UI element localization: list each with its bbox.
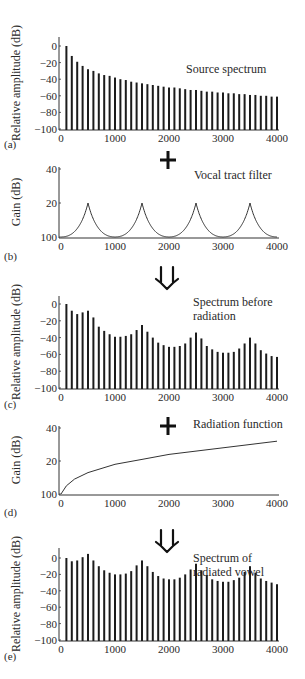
y-tick-label: 0: [52, 552, 58, 564]
harmonic-bar: [163, 87, 165, 130]
x-tick-label: 4000: [266, 391, 289, 403]
harmonic-bar: [109, 76, 111, 130]
harmonic-bar: [222, 582, 224, 641]
harmonic-bar: [265, 96, 267, 130]
harmonic-bar: [271, 356, 273, 389]
x-tick-label: 0: [58, 643, 64, 655]
harmonic-bar: [254, 343, 256, 389]
harmonic-bar: [136, 330, 138, 389]
x-tick-label: 3000: [212, 643, 235, 655]
y-tick-label: −40: [40, 73, 58, 85]
harmonic-bar: [146, 566, 148, 641]
harmonic-bar: [76, 314, 78, 389]
harmonic-bar: [136, 565, 138, 641]
harmonic-bar: [227, 353, 229, 389]
y-tick-label: −40: [40, 332, 58, 344]
harmonic-bar: [125, 80, 127, 130]
y-axis-label: Relative amplitude (dB): [9, 536, 23, 652]
x-tick-label: 2000: [158, 240, 181, 252]
panel-annotation: Vocal tract filter: [194, 168, 272, 182]
x-tick-label: 3000: [212, 240, 235, 252]
y-tick-label: 20: [46, 197, 58, 209]
x-tick-label: 1000: [104, 497, 127, 509]
x-tick-label: 2000: [158, 643, 181, 655]
harmonic-bar: [200, 91, 202, 130]
panel-annotation: radiated vowel: [193, 565, 265, 579]
vocal-tract-filter-curve: [61, 203, 277, 237]
harmonic-bar: [136, 83, 138, 130]
harmonic-bar: [87, 554, 89, 641]
harmonic-bar: [152, 338, 154, 389]
harmonic-bar: [87, 69, 89, 130]
harmonic-bar: [173, 579, 175, 641]
harmonic-bar: [98, 73, 100, 130]
down-arrow-icon: [156, 530, 178, 552]
panel-label: (e): [4, 650, 17, 663]
harmonic-bar: [92, 560, 94, 641]
harmonic-bar: [233, 352, 235, 389]
x-tick-label: 4000: [266, 643, 289, 655]
harmonic-bar: [119, 337, 121, 389]
x-tick-label: 1000: [104, 132, 127, 144]
harmonic-bar: [98, 566, 100, 641]
harmonic-bar: [184, 89, 186, 130]
panel-d: 402010001000200030004000Gain (dB)(d)Radi…: [4, 417, 289, 519]
y-tick-label: −60: [40, 348, 58, 360]
harmonic-bar: [179, 578, 181, 641]
y-tick-label: −100: [34, 382, 57, 394]
harmonic-bar: [260, 579, 262, 642]
harmonic-bar: [179, 346, 181, 389]
plus-icon: [160, 151, 176, 169]
harmonic-bar: [141, 560, 143, 641]
harmonic-bar: [130, 571, 132, 641]
harmonic-bar: [98, 327, 100, 389]
harmonic-bar: [206, 92, 208, 130]
harmonic-bar: [92, 71, 94, 130]
harmonic-bar: [82, 557, 84, 641]
harmonic-bar: [238, 578, 240, 641]
x-tick-label: 2000: [158, 497, 181, 509]
x-tick-label: 3000: [212, 391, 235, 403]
y-axis-label: Gain (dB): [9, 436, 23, 484]
x-tick-label: 3000: [212, 497, 235, 509]
harmonic-bar: [195, 90, 197, 130]
harmonic-bar: [254, 573, 256, 641]
harmonic-bar: [141, 325, 143, 389]
y-tick-label: 0: [52, 40, 58, 52]
y-tick-label: 100: [41, 231, 58, 243]
harmonic-bar: [103, 331, 105, 389]
x-tick-label: 1000: [104, 643, 127, 655]
harmonic-bar: [163, 579, 165, 642]
harmonic-bar: [190, 338, 192, 389]
radiation-function-curve: [61, 441, 277, 494]
harmonic-bar: [265, 354, 267, 389]
plus-icon: [160, 417, 176, 435]
y-tick-label: 100: [41, 488, 58, 500]
harmonic-bar: [168, 347, 170, 389]
harmonic-bar: [190, 569, 192, 641]
harmonic-bar: [211, 579, 213, 641]
harmonic-bar: [157, 86, 159, 130]
harmonic-bar: [168, 579, 170, 641]
harmonic-bar: [222, 353, 224, 389]
harmonic-bar: [190, 90, 192, 130]
y-tick-label: −40: [40, 585, 58, 597]
harmonic-bar: [173, 88, 175, 131]
down-arrow-icon: [156, 267, 178, 289]
harmonic-bar: [276, 584, 278, 641]
harmonic-bar: [179, 88, 181, 130]
harmonic-bar: [211, 92, 213, 130]
panel-annotation: Spectrum before: [193, 295, 273, 309]
y-tick-label: −100: [34, 123, 57, 135]
panel-annotation: Source spectrum: [186, 62, 267, 76]
panel-b: 402010001000200030004000Gain (dB)(b)Voca…: [4, 163, 289, 263]
harmonic-bar: [238, 94, 240, 130]
harmonic-bar: [200, 338, 202, 389]
panel-label: (b): [4, 250, 17, 263]
harmonic-bar: [114, 78, 116, 130]
harmonic-bar: [233, 93, 235, 130]
harmonic-bar: [82, 66, 84, 130]
x-tick-label: 0: [58, 497, 64, 509]
harmonic-bar: [65, 304, 67, 389]
harmonic-bar: [211, 349, 213, 389]
